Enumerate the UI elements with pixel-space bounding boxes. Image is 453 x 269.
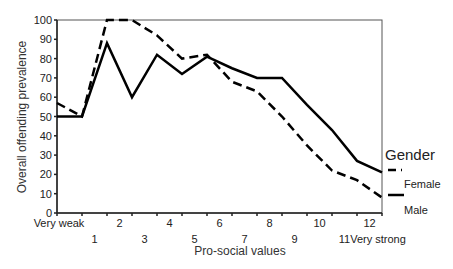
y-tick-label: 60 xyxy=(40,91,52,103)
x-tick-label: Very weak xyxy=(34,217,85,229)
series-line-male xyxy=(57,43,382,172)
y-tick-label: 80 xyxy=(40,53,52,65)
legend-female-label: Female xyxy=(404,178,441,190)
series-lines xyxy=(57,20,382,198)
y-axis-ticks: 0102030405060708090100 xyxy=(34,14,57,219)
x-axis-title: Pro-social values xyxy=(194,244,285,258)
legend-male-label: Male xyxy=(404,204,428,216)
y-tick-label: 70 xyxy=(40,72,52,84)
y-tick-label: 10 xyxy=(40,188,52,200)
y-tick-label: 90 xyxy=(40,33,52,45)
y-axis-title: Overall offending prevalence xyxy=(15,40,29,193)
x-tick-label: 2 xyxy=(116,217,122,229)
y-tick-label: 30 xyxy=(40,149,52,161)
legend: Gender Female Male xyxy=(385,146,441,216)
x-tick-label: 1 xyxy=(91,233,97,245)
line-chart: 0102030405060708090100 Very weak12345678… xyxy=(0,0,453,269)
x-tick-label: 6 xyxy=(216,217,222,229)
x-tick-label: Very strong xyxy=(350,233,406,245)
x-tick-label: 4 xyxy=(166,217,172,229)
x-tick-label: 8 xyxy=(266,217,272,229)
y-tick-label: 40 xyxy=(40,130,52,142)
x-axis-ticks: Very weak123456789101112Very strong xyxy=(34,213,406,245)
y-tick-label: 50 xyxy=(40,111,52,123)
legend-title: Gender xyxy=(385,146,435,163)
x-tick-label: 9 xyxy=(291,233,297,245)
y-tick-label: 100 xyxy=(34,14,52,26)
x-tick-label: 12 xyxy=(363,217,375,229)
x-tick-label: 11 xyxy=(339,233,350,245)
x-tick-label: 3 xyxy=(141,233,147,245)
y-tick-label: 20 xyxy=(40,168,52,180)
x-tick-label: 10 xyxy=(313,217,325,229)
